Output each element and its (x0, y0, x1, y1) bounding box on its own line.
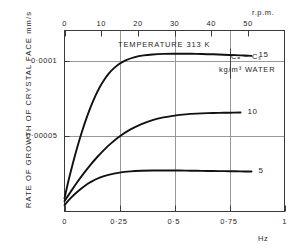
x-tick-1: 0·25 (110, 218, 127, 226)
plot-canvas (0, 0, 299, 250)
x-tick-3: 0·75 (220, 218, 237, 226)
annotation-concentration-symbol: Cₐ − Cₛ (231, 53, 262, 61)
curve-series-5 (65, 170, 252, 205)
top-tick-1: 10 (97, 20, 106, 28)
curve-series-15 (65, 54, 252, 199)
annotation-concentration-units: kg/m³ WATER (219, 66, 275, 74)
annotation-temperature: TEMPERATURE 313 K (118, 41, 210, 49)
data-curves (65, 54, 252, 205)
series-label-5: 5 (259, 167, 264, 175)
top-tick-2: 20 (133, 20, 142, 28)
y-tick-0: 0·0001 (31, 57, 57, 65)
y-tick-1: 0·00005 (26, 132, 57, 140)
series-label-10: 10 (248, 108, 258, 116)
x-tick-2: 0·5 (168, 218, 180, 226)
top-tick-5: 50 (243, 20, 252, 28)
x-tick-0: 0 (62, 218, 67, 226)
top-tick-0: 0 (62, 20, 67, 28)
curve-series-10 (65, 113, 241, 202)
top-tick-4: 40 (207, 20, 216, 28)
x-tick-4: 1 (282, 218, 287, 226)
chart-figure: RATE OF GROWTH OF CRYSTAL FACE mm/s r.p.… (0, 0, 299, 250)
top-tick-3: 30 (170, 20, 179, 28)
